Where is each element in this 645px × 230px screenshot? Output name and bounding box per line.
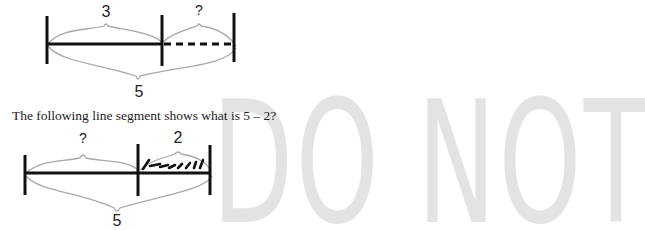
question-text: The following line segment shows what is…: [12, 108, 276, 124]
diagram-2-label-unknown: ?: [79, 130, 87, 146]
diagram-2-label-removed: 2: [174, 129, 183, 147]
diagram-2-label-whole: 5: [113, 212, 122, 230]
